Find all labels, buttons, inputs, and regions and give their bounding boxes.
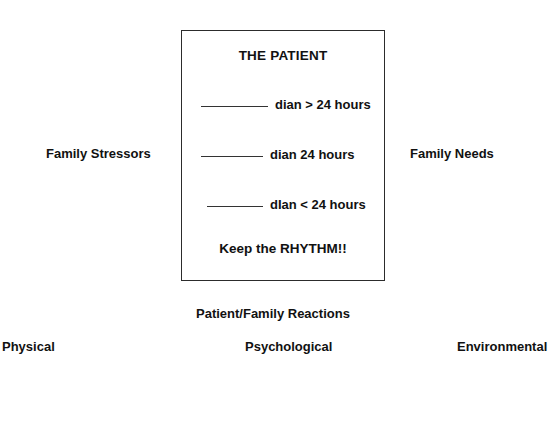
label-psychological: Psychological <box>245 339 332 354</box>
label-family-stressors: Family Stressors <box>46 146 151 161</box>
patient-box-footer: Keep the RHYTHM!! <box>182 241 384 256</box>
fill-row-24-hours: dian 24 hours <box>201 147 355 162</box>
label-environmental: Environmental <box>457 339 547 354</box>
label-family-needs: Family Needs <box>410 146 494 161</box>
fill-row-label-1: dian > 24 hours <box>275 97 371 112</box>
blank-line-1 <box>201 106 268 107</box>
patient-box-title: THE PATIENT <box>182 48 384 63</box>
blank-line-2 <box>201 156 263 157</box>
fill-row-less-than-24-hours: dIan < 24 hours <box>207 197 366 212</box>
label-patient-family-reactions: Patient/Family Reactions <box>196 306 350 321</box>
fill-row-greater-than-24-hours: dian > 24 hours <box>201 97 371 112</box>
diagram-canvas: THE PATIENT dian > 24 hours dian 24 hour… <box>0 0 554 445</box>
patient-box: THE PATIENT dian > 24 hours dian 24 hour… <box>181 30 385 281</box>
label-physical: Physical <box>2 339 55 354</box>
fill-row-label-2: dian 24 hours <box>270 147 355 162</box>
blank-line-3 <box>207 206 263 207</box>
fill-row-label-3: dIan < 24 hours <box>270 197 366 212</box>
